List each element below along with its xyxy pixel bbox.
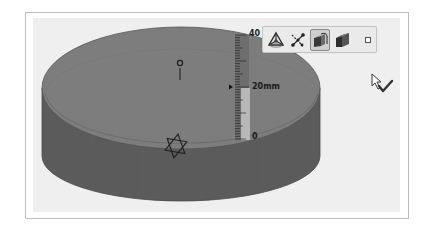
ruler-extruded-range xyxy=(241,88,250,140)
ruler-label-current: 20mm xyxy=(252,83,280,91)
extrude-button[interactable] xyxy=(310,29,331,51)
triad-icon xyxy=(267,31,285,49)
triad-button[interactable] xyxy=(266,29,287,51)
arrow-checkmark-cursor-icon xyxy=(370,72,394,94)
ruler-label-max: 40 xyxy=(249,30,260,38)
solid-face-icon xyxy=(333,31,351,49)
solid-button[interactable] xyxy=(331,29,352,51)
extrude-icon xyxy=(311,31,329,49)
more-options-button[interactable] xyxy=(359,29,376,51)
relations-button[interactable] xyxy=(288,29,309,51)
context-toolbar xyxy=(262,26,377,53)
ruler-label-min: 0 xyxy=(252,133,258,141)
sketch-relations-icon xyxy=(289,31,307,49)
small-square-icon xyxy=(363,35,373,45)
